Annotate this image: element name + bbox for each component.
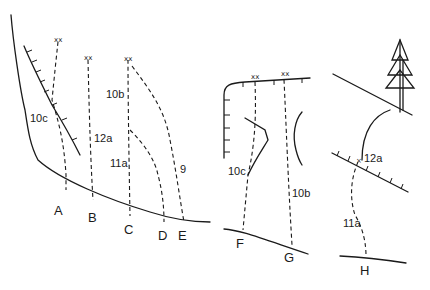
anchor-g: xx [281,70,289,78]
route-letter-h: H [360,263,369,278]
route-letter-f: F [236,236,244,251]
route-letter-b: B [88,210,97,225]
grade-9: 9 [180,163,186,175]
grade-11a-right: 11a [343,217,361,229]
middle-right-arch [294,112,302,165]
route-letter-a: A [54,203,63,218]
right-ground-line [340,256,406,263]
left-panel: xx 10c A xx 12a B xx 10b 11a C D 9 E [11,15,210,243]
anchor-b: xx [84,54,92,62]
route-b-line [88,60,93,200]
right-panel: × 12a 11a H [332,40,414,278]
grade-10c-mid: 10c [228,165,246,177]
route-d-line [130,130,164,222]
grade-12a-right: 12a [364,152,383,164]
route-f-line [243,82,255,230]
route-e-line [132,66,184,222]
anchor-c: xx [124,55,132,63]
grade-10c-left: 10c [30,112,48,124]
route-letter-e: E [178,228,187,243]
middle-roof-ticks [224,78,302,152]
route-letter-d: D [158,228,167,243]
middle-flake [245,118,268,175]
grade-10b-mid: 10b [292,187,310,199]
route-g-line [284,80,292,245]
anchor-f: xx [251,73,259,81]
middle-roof-line [224,78,310,158]
route-h-line [352,162,366,256]
dihedral-ticks [27,50,77,140]
route-letter-c: C [124,222,133,237]
climbing-topo-diagram: xx 10c A xx 12a B xx 10b 11a C D 9 E [0,0,430,290]
grade-10b-left: 10b [106,88,124,100]
anchor-a: xx [54,36,62,44]
route-letter-g: G [284,250,294,265]
grade-11a-left: 11a [110,157,128,169]
grade-12a-left: 12a [94,132,113,144]
middle-panel: xx 10c F xx 10b G [224,70,310,265]
route-c-line [128,60,130,216]
tree-icon [386,40,414,112]
bolt-h: × [356,157,362,165]
